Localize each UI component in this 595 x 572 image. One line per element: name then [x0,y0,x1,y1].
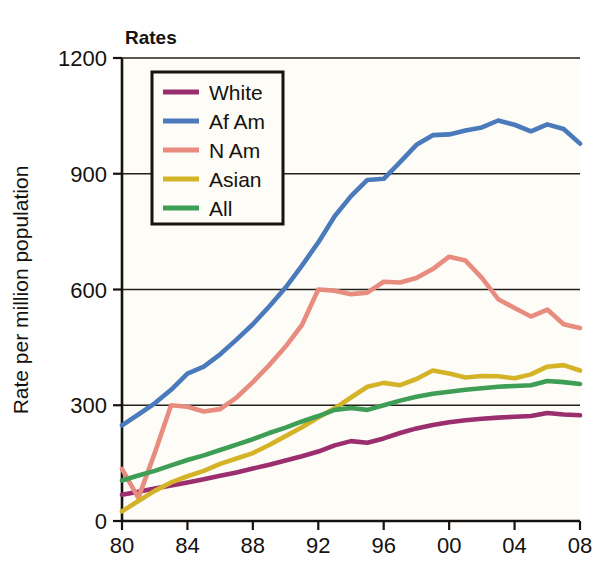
legend-label-n-am: N Am [209,139,260,162]
y-tick-label-600: 600 [70,278,107,303]
legend: WhiteAf AmN AmAsianAll [152,72,283,224]
x-tick-label-04: 04 [502,533,526,558]
x-axis-ticks: 8084889296000408 [110,521,592,558]
y-tick-label-1200: 1200 [58,46,107,71]
x-tick-label-84: 84 [175,533,199,558]
y-axis-ticks: 03006009001200 [58,46,122,534]
y-tick-label-900: 900 [70,162,107,187]
x-tick-label-08: 08 [568,533,592,558]
legend-label-asian: Asian [209,168,262,191]
x-tick-label-00: 00 [437,533,461,558]
legend-label-af-am: Af Am [209,110,265,133]
chart-title: Rates [125,27,177,48]
x-tick-label-92: 92 [306,533,330,558]
x-tick-label-96: 96 [371,533,395,558]
y-tick-label-300: 300 [70,393,107,418]
rates-line-chart: 03006009001200 8084889296000408 Rate per… [0,0,595,572]
x-tick-label-80: 80 [110,533,134,558]
legend-label-white: White [209,81,263,104]
y-tick-label-0: 0 [95,509,107,534]
legend-label-all: All [209,197,232,220]
x-tick-label-88: 88 [241,533,265,558]
y-axis-title: Rate per million population [9,166,32,415]
chart-figure: 03006009001200 8084889296000408 Rate per… [0,0,595,572]
